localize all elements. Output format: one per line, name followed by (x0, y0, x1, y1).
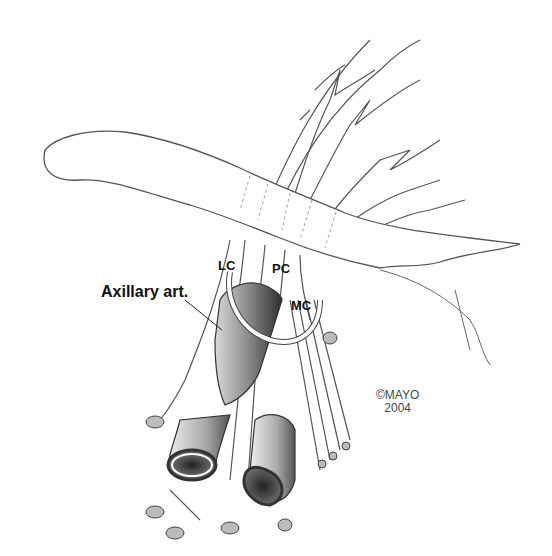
label-axillary-artery: Axillary art. (101, 283, 188, 301)
copyright-notice: ©MAYO 2004 (376, 389, 419, 415)
clavicle (44, 131, 520, 268)
label-medial-cord: MC (291, 298, 311, 313)
axillary-artery (215, 283, 282, 405)
label-posterior-cord: PC (272, 261, 290, 276)
label-lateral-cord: LC (218, 258, 235, 273)
copyright-line-2: 2004 (376, 402, 419, 415)
anatomy-illustration: LC PC MC Axillary art. ©MAYO 2004 (0, 0, 552, 556)
axillary-art-leader-line (185, 300, 222, 330)
brachial-plexus-drawing (0, 0, 552, 556)
